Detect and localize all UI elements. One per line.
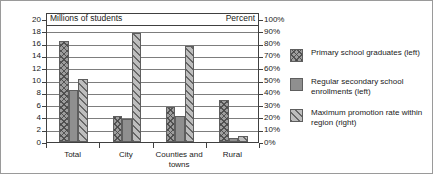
- x-axis-label: Counties and towns: [149, 150, 209, 170]
- bar: [166, 107, 176, 142]
- legend-swatch-solid: [290, 78, 303, 91]
- x-tick-mark: [259, 143, 260, 148]
- y-tick-label-left: 12: [21, 64, 41, 73]
- y-tick-label-left: 8: [21, 88, 41, 97]
- plot-area: [46, 20, 259, 143]
- bar: [132, 33, 142, 142]
- bar: [185, 46, 195, 142]
- y-tick-mark-right: [259, 131, 263, 132]
- chart-legend: Primary school graduates (left)Regular s…: [290, 48, 432, 139]
- y-tick-label-left: 6: [21, 101, 41, 110]
- bar: [59, 41, 69, 142]
- bar: [229, 138, 239, 142]
- y-tick-mark-right: [259, 118, 263, 119]
- y-tick-mark-right: [259, 82, 263, 83]
- x-tick-mark: [46, 143, 47, 148]
- gridline: [47, 32, 258, 33]
- right-axis-title: Percent: [226, 13, 255, 23]
- y-tick-label-left: 10: [21, 76, 41, 85]
- legend-item: Primary school graduates (left): [290, 48, 432, 66]
- y-tick-label-left: 4: [21, 113, 41, 122]
- y-tick-label-right: 90%: [264, 27, 298, 36]
- y-tick-mark-right: [259, 57, 263, 58]
- x-tick-mark: [206, 143, 207, 148]
- y-tick-mark-right: [259, 20, 263, 21]
- x-tick-mark: [153, 143, 154, 148]
- bar: [78, 79, 88, 142]
- x-axis-label: Rural: [202, 150, 262, 160]
- y-tick-label-left: 20: [21, 15, 41, 24]
- y-tick-label-left: 0: [21, 138, 41, 147]
- bar: [122, 119, 132, 142]
- gridline: [47, 69, 258, 70]
- gridline: [47, 57, 258, 58]
- x-axis-label: Total: [43, 150, 103, 160]
- bar: [238, 136, 248, 142]
- legend-label: Primary school graduates (left): [311, 48, 432, 58]
- y-tick-label-right: 100%: [264, 15, 298, 24]
- bar: [175, 116, 185, 142]
- x-tick-mark: [99, 143, 100, 148]
- legend-swatch-crosshatch: [290, 49, 303, 62]
- legend-swatch-diagonal: [290, 109, 303, 122]
- bar: [219, 100, 229, 142]
- y-tick-label-left: 2: [21, 125, 41, 134]
- chart-figure: 02468101214161820 0%10%20%30%40%50%60%70…: [0, 0, 433, 174]
- legend-item: Maximum promotion rate within region (ri…: [290, 108, 432, 128]
- axis-title-banner: Millions of students Percent: [46, 13, 259, 26]
- legend-item: Regular secondary school enrollments (le…: [290, 77, 432, 97]
- y-tick-mark-right: [259, 45, 263, 46]
- y-tick-mark-right: [259, 32, 263, 33]
- y-tick-label-left: 14: [21, 51, 41, 60]
- y-tick-mark-right: [259, 69, 263, 70]
- bar: [113, 116, 123, 142]
- left-axis-title: Millions of students: [50, 13, 122, 23]
- y-tick-mark-right: [259, 94, 263, 95]
- x-axis-label: City: [96, 150, 156, 160]
- bar: [69, 90, 79, 142]
- y-tick-mark-right: [259, 106, 263, 107]
- gridline: [47, 45, 258, 46]
- y-tick-label-left: 16: [21, 39, 41, 48]
- legend-label: Regular secondary school enrollments (le…: [311, 77, 432, 97]
- legend-label: Maximum promotion rate within region (ri…: [311, 108, 432, 128]
- y-tick-label-left: 18: [21, 27, 41, 36]
- y-tick-label-right: 80%: [264, 39, 298, 48]
